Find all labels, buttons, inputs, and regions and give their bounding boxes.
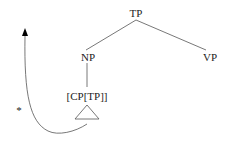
node-label-vp: VP: [203, 51, 217, 63]
subtree-triangle: [75, 105, 99, 119]
arrowhead-icon: [22, 28, 28, 36]
node-label-np: NP: [81, 51, 95, 63]
edge-tp-vp: [136, 20, 206, 50]
edge-tp-np: [86, 20, 136, 50]
node-label-tp: TP: [130, 7, 143, 19]
node-label-cp-tp: [CP[TP]]: [67, 90, 108, 102]
syntax-tree-diagram: TP NP VP [CP[TP]] *: [0, 0, 231, 145]
ungrammatical-asterisk: *: [16, 104, 22, 116]
